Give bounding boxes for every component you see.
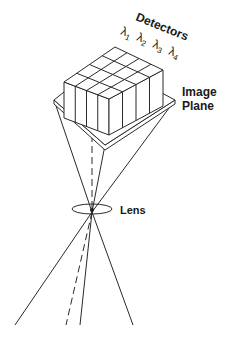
lens-label: Lens — [120, 204, 146, 216]
imaging-spectrometer-diagram: Detectors λ1 λ2 λ3 λ4 Image Plane Lens — [0, 0, 228, 340]
wavelength-2: λ2 — [134, 30, 150, 49]
rays-below-lens — [15, 212, 133, 325]
lens-focal-point — [90, 208, 94, 212]
image-plane-label-line2: Plane — [182, 99, 214, 113]
wavelength-4: λ4 — [166, 44, 182, 63]
image-plane-label-line1: Image — [182, 85, 217, 99]
wavelength-1: λ1 — [118, 24, 134, 43]
wavelength-3: λ3 — [150, 37, 166, 56]
